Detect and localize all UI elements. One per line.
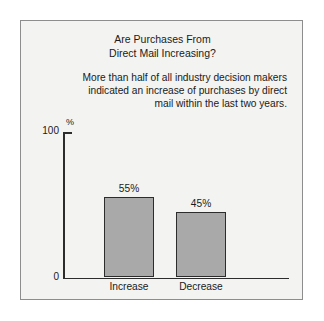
category-label-decrease: Decrease <box>166 281 236 292</box>
plot-area: % 100 0 55% 45% Increase Decrease <box>21 21 304 301</box>
bar-decrease <box>176 212 226 277</box>
bar-value-label-decrease: 45% <box>166 198 236 209</box>
y-axis-tick-label-100: 100 <box>23 125 59 136</box>
y-axis-top-tick <box>63 132 72 134</box>
bar-increase <box>104 197 154 277</box>
y-axis-unit-label: % <box>66 117 74 127</box>
y-axis-tick-label-0: 0 <box>23 271 59 282</box>
bar-value-label-increase: 55% <box>94 183 164 194</box>
chart-figure: Are Purchases From Direct Mail Increasin… <box>0 0 324 321</box>
y-axis-line <box>63 132 65 279</box>
category-label-increase: Increase <box>94 281 164 292</box>
chart-panel: Are Purchases From Direct Mail Increasin… <box>20 20 303 300</box>
x-axis-line <box>63 278 289 280</box>
